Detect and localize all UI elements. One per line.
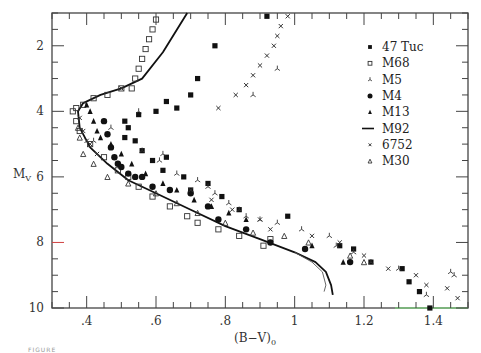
filled-square-marker xyxy=(133,138,138,143)
filled-triangle-marker xyxy=(88,108,93,114)
filled-circle-marker xyxy=(101,118,107,124)
legend-item: M92 xyxy=(362,122,410,136)
open-triangle-marker xyxy=(368,159,372,163)
filled-square-marker xyxy=(264,14,269,19)
filled-circle-marker xyxy=(149,184,155,190)
filled-triangle-marker xyxy=(341,259,346,265)
filled-triangle-marker xyxy=(160,180,165,186)
legend-item: M30 xyxy=(368,154,409,168)
filled-circle-marker xyxy=(243,226,249,232)
cross-marker xyxy=(369,143,372,146)
filled-circle-marker xyxy=(267,239,273,245)
filled-triangle-marker xyxy=(368,110,372,114)
x-tick-label: .6 xyxy=(150,314,161,328)
filled-circle-marker xyxy=(104,131,110,137)
open-square-marker xyxy=(167,204,172,209)
open-square-marker xyxy=(216,227,221,232)
legend-item: M68 xyxy=(368,56,409,70)
open-triangle-marker xyxy=(250,230,255,235)
tripod-marker xyxy=(108,125,113,130)
open-square-marker xyxy=(136,66,141,71)
y-tick-label: 10 xyxy=(29,301,44,315)
y-tick-label: 8 xyxy=(36,235,44,249)
filled-square-marker xyxy=(212,43,217,48)
legend-label: 6752 xyxy=(382,138,413,152)
cross-marker xyxy=(95,152,99,156)
cross-marker xyxy=(424,283,428,287)
figure-caption: FIGURE xyxy=(28,346,56,353)
filled-square-marker xyxy=(160,168,165,173)
filled-triangle-marker xyxy=(119,151,124,157)
tripod-marker xyxy=(424,292,429,297)
tripod-marker xyxy=(160,151,165,156)
filled-square-marker xyxy=(285,214,290,219)
cross-marker xyxy=(272,44,276,48)
filled-square-marker xyxy=(427,305,432,310)
cross-marker xyxy=(244,83,248,87)
x-tick-label: 1 xyxy=(291,314,299,328)
tripod-marker xyxy=(250,92,255,97)
cross-marker xyxy=(251,73,255,77)
filled-triangle-marker xyxy=(108,141,113,147)
tripod-marker xyxy=(212,190,217,195)
x-tick-label: .8 xyxy=(220,314,231,328)
filled-circle-marker xyxy=(118,164,124,170)
legend-label: M92 xyxy=(382,122,410,136)
tripod-marker xyxy=(275,66,280,71)
filled-square-marker xyxy=(188,92,193,97)
series-m4 xyxy=(101,118,354,265)
tripod-marker xyxy=(327,233,332,238)
legend-item: M13 xyxy=(368,105,409,119)
filled-circle-marker xyxy=(125,170,131,176)
tripod-marker xyxy=(448,269,453,274)
cross-marker xyxy=(362,253,366,257)
filled-triangle-marker xyxy=(94,128,99,134)
series-m68 xyxy=(70,17,273,248)
legend-label: M30 xyxy=(382,154,410,168)
open-triangle-marker xyxy=(223,220,228,225)
open-square-marker xyxy=(70,109,75,114)
open-triangle-marker xyxy=(91,161,96,166)
open-square-marker xyxy=(185,214,190,219)
cross-marker xyxy=(456,296,460,300)
legend-label: M4 xyxy=(382,89,402,103)
cross-marker xyxy=(258,63,262,67)
legend-label: M13 xyxy=(382,105,410,119)
cross-marker xyxy=(265,54,269,58)
open-square-marker xyxy=(368,61,372,65)
filled-square-marker xyxy=(126,125,131,130)
cross-marker xyxy=(234,93,238,97)
legend-label: 47 Tuc xyxy=(382,40,424,54)
open-square-marker xyxy=(195,220,200,225)
series-m13 xyxy=(84,102,346,265)
cross-marker xyxy=(386,267,390,271)
filled-square-marker xyxy=(122,119,127,124)
legend-item: 6752 xyxy=(369,138,413,152)
filled-circle-marker xyxy=(368,93,373,98)
isochrone-curves xyxy=(78,13,333,295)
legend-label: M68 xyxy=(382,56,410,70)
tripod-marker xyxy=(368,77,372,81)
tripod-marker xyxy=(174,171,179,176)
cross-marker xyxy=(279,24,283,28)
filled-triangle-marker xyxy=(91,118,96,124)
cross-marker xyxy=(230,208,234,212)
filled-triangle-marker xyxy=(174,187,179,193)
cmd-chart: .4.6.811.21.4 246810 47 TucM68M5M4M13M92… xyxy=(0,0,481,353)
x-tick-label: .4 xyxy=(81,314,93,328)
filled-square-marker xyxy=(181,174,186,179)
filled-circle-marker xyxy=(302,246,308,252)
y-tick-label: 2 xyxy=(36,39,44,53)
filled-triangle-marker xyxy=(143,171,148,177)
legend: 47 TucM68M5M4M13M926752M30 xyxy=(362,40,424,168)
filled-circle-marker xyxy=(215,216,221,222)
cross-marker xyxy=(310,234,314,238)
open-square-marker xyxy=(237,233,242,238)
open-triangle-marker xyxy=(306,240,311,245)
thin-isochrone xyxy=(295,252,326,291)
open-triangle-marker xyxy=(105,174,110,179)
legend-item: M5 xyxy=(368,73,402,87)
filled-square-marker xyxy=(417,289,422,294)
filled-square-marker xyxy=(153,109,158,114)
legend-label: M5 xyxy=(382,73,402,87)
